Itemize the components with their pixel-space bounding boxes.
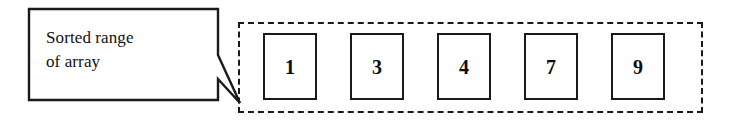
array-cell-value: 3 (372, 57, 382, 77)
array-cell: 7 (524, 33, 578, 100)
array-cells: 1 3 4 7 9 (263, 33, 665, 100)
array-cell: 1 (263, 33, 317, 100)
callout-label: Sorted range of array (46, 26, 176, 74)
array-cell: 4 (437, 33, 491, 100)
array-cell: 9 (611, 33, 665, 100)
array-cell-value: 1 (285, 57, 295, 77)
array-cell-value: 4 (459, 57, 469, 77)
array-cell-value: 9 (633, 57, 643, 77)
array-cell-value: 7 (546, 57, 556, 77)
array-cell: 3 (350, 33, 404, 100)
sorted-range-diagram: Sorted range of array 1 3 4 7 9 (0, 0, 733, 129)
